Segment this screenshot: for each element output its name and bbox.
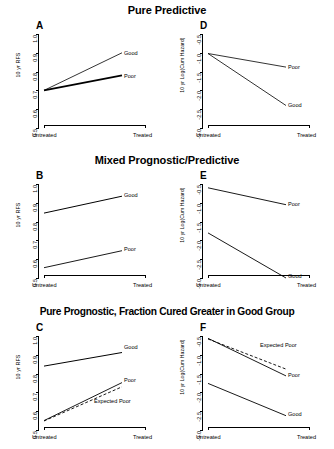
panel-c-ylabel: 10 yr RFS bbox=[15, 331, 21, 403]
panel-b-label-poor: Poor bbox=[124, 246, 136, 252]
panel-e-plot bbox=[202, 184, 314, 278]
figure-section-pure-prognostic: Pure Prognostic, Fraction Cured Greater … bbox=[0, 302, 334, 449]
series-line-poor bbox=[208, 188, 286, 205]
xtick-label-treated: Treated bbox=[297, 282, 316, 288]
panel-letter-c: C bbox=[36, 322, 43, 333]
series-line-good bbox=[208, 383, 286, 415]
panel-b-lines bbox=[38, 184, 150, 278]
panel-d-plot bbox=[202, 34, 314, 128]
series-line-poor bbox=[44, 251, 122, 268]
panel-c-label-good: Good bbox=[124, 344, 138, 350]
xtick-label-untreated: Untreated bbox=[32, 132, 57, 138]
panel-f: F 10 yr Log(Cum Hazard) -0.5 -1.0 -1.5 -… bbox=[172, 320, 332, 449]
series-line-good bbox=[44, 53, 122, 91]
panel-b-ylabel: 10 yr RFS bbox=[15, 179, 21, 251]
xtick-label-treated: Treated bbox=[133, 132, 152, 138]
panel-e-xaxis bbox=[208, 275, 310, 276]
panel-c-label-poor: Poor bbox=[124, 377, 136, 383]
figure-panel-grid: Pure Predictive A 10 yr RFS 1.0 0.9 0.8 … bbox=[0, 0, 334, 449]
panel-letter-a: A bbox=[36, 20, 43, 31]
panel-d-label-poor: Poor bbox=[288, 64, 300, 70]
panel-letter-b: B bbox=[36, 170, 43, 181]
section-title: Pure Prognostic, Fraction Cured Greater … bbox=[0, 306, 334, 317]
panel-a-ylabel: 10 yr RFS bbox=[15, 29, 21, 101]
xtick-label-untreated: Untreated bbox=[196, 132, 221, 138]
panel-letter-f: F bbox=[200, 322, 206, 333]
series-line-good bbox=[208, 233, 286, 278]
panel-a-lines bbox=[38, 34, 150, 128]
xtick-label-untreated: Untreated bbox=[196, 282, 221, 288]
series-line-poor bbox=[44, 75, 122, 90]
series-line-poor bbox=[208, 54, 286, 68]
panel-letter-e: E bbox=[200, 170, 207, 181]
panel-e: E 10 yr Log(Cum Hazard) -0.5 -1.0 -1.5 -… bbox=[172, 168, 332, 298]
panel-f-label-expected-poor: Expected Poor bbox=[260, 342, 297, 348]
panel-f-xaxis bbox=[208, 427, 310, 428]
xtick-label-treated: Treated bbox=[133, 282, 152, 288]
panel-b: B 10 yr RFS 1.0 0.9 0.8 0.7 0.6 0.5 Good… bbox=[8, 168, 168, 298]
panel-d: D 10 yr Log(Cum Hazard) -0.5 -1.0 -1.5 -… bbox=[172, 18, 332, 148]
section-title: Pure Predictive bbox=[0, 4, 334, 16]
series-line-good bbox=[44, 353, 122, 367]
panel-d-ylabel: 10 yr Log(Cum Hazard) bbox=[179, 25, 185, 105]
panel-c: C 10 yr RFS 1.0 0.9 0.8 0.7 0.6 0.5 Good… bbox=[8, 320, 168, 449]
panel-c-label-expected-poor: Expected Poor bbox=[94, 398, 131, 404]
section-title: Mixed Prognostic/Predictive bbox=[0, 154, 334, 166]
panel-c-xaxis bbox=[44, 427, 146, 428]
figure-section-mixed-prognostic-predictive: Mixed Prognostic/Predictive B 10 yr RFS … bbox=[0, 150, 334, 302]
panel-b-label-good: Good bbox=[124, 192, 138, 198]
panel-b-xaxis bbox=[44, 275, 146, 276]
xtick-label-untreated: Untreated bbox=[32, 434, 57, 440]
xtick-label-untreated: Untreated bbox=[196, 434, 221, 440]
panel-a-xaxis bbox=[44, 125, 146, 126]
series-line-good bbox=[208, 54, 286, 106]
panel-a: A 10 yr RFS 1.0 0.9 0.8 0.7 0.6 0.5 Good… bbox=[8, 18, 168, 148]
panel-a-label-good: Good bbox=[124, 50, 138, 56]
panel-f-label-good: Good bbox=[288, 411, 302, 417]
xtick-label-treated: Treated bbox=[297, 132, 316, 138]
xtick-label-treated: Treated bbox=[133, 434, 152, 440]
panel-e-label-poor: Poor bbox=[288, 201, 300, 207]
panel-f-ylabel: 10 yr Log(Cum Hazard) bbox=[179, 327, 185, 407]
xtick-label-untreated: Untreated bbox=[32, 282, 57, 288]
panel-e-lines bbox=[202, 184, 314, 278]
figure-section-pure-predictive: Pure Predictive A 10 yr RFS 1.0 0.9 0.8 … bbox=[0, 0, 334, 150]
panel-b-plot bbox=[38, 184, 150, 278]
xtick-label-treated: Treated bbox=[297, 434, 316, 440]
panel-e-label-good: Good bbox=[288, 273, 302, 279]
panel-d-lines bbox=[202, 34, 314, 128]
panel-c-plot bbox=[38, 336, 150, 430]
panel-f-label-poor: Poor bbox=[288, 372, 300, 378]
panel-e-ylabel: 10 yr Log(Cum Hazard) bbox=[179, 175, 185, 255]
panel-c-lines bbox=[38, 336, 150, 430]
panel-letter-d: D bbox=[200, 20, 207, 31]
panel-d-label-good: Good bbox=[288, 102, 302, 108]
panel-a-label-poor: Poor bbox=[124, 73, 136, 79]
panel-d-xaxis bbox=[208, 125, 310, 126]
panel-a-plot bbox=[38, 34, 150, 128]
series-line-good bbox=[44, 196, 122, 213]
